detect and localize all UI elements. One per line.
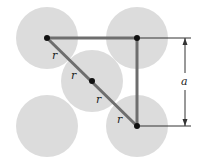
atom-bottom-left — [16, 95, 78, 157]
label-r-4: r — [117, 113, 123, 126]
label-r-2: r — [71, 69, 77, 82]
label-r-1: r — [52, 49, 58, 62]
dot-top-left — [44, 35, 50, 41]
arrow-up-icon — [183, 38, 188, 45]
dot-center — [89, 78, 95, 84]
label-r-3: r — [96, 93, 102, 106]
dot-bottom-right — [134, 123, 140, 129]
arrow-down-icon — [183, 119, 188, 126]
label-a: a — [181, 75, 188, 88]
dot-top-right — [134, 35, 140, 41]
diagram-canvas: r r r r a — [0, 0, 201, 166]
